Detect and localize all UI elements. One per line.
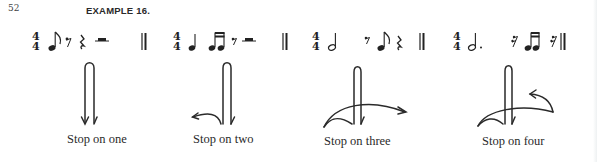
eighth-note-icon xyxy=(48,32,61,52)
quarter-rest-icon xyxy=(398,36,402,50)
down-stroke-left-curve-arrow-icon xyxy=(193,63,235,124)
double-barline-icon xyxy=(561,33,565,50)
double-barline-icon xyxy=(420,33,424,50)
half-rest-icon xyxy=(95,38,109,41)
time-signature-bottom: 4 xyxy=(453,40,461,53)
eighth-rest-icon xyxy=(232,38,237,45)
double-barline-icon xyxy=(142,33,146,50)
time-signature-bottom: 4 xyxy=(173,40,181,53)
caption-stop-on-three: Stop on three xyxy=(324,134,391,149)
down-stroke-cross-right-arrow-icon xyxy=(324,67,406,127)
measure-2: 4 4 xyxy=(173,30,287,53)
time-signature-bottom: 4 xyxy=(312,40,320,53)
double-barline-icon xyxy=(283,33,287,50)
quarter-note-icon xyxy=(188,34,196,52)
measure-3: 4 4 xyxy=(312,30,424,53)
time-signature-3: 4 4 xyxy=(312,30,320,53)
eighth-rest-icon xyxy=(365,37,370,44)
sixteenth-rest-icon xyxy=(511,36,517,47)
caption-stop-on-one: Stop on one xyxy=(67,132,127,147)
caption-stop-on-four: Stop on four xyxy=(482,134,545,149)
time-signature-bottom: 4 xyxy=(32,40,40,53)
measure-1: 4 4 xyxy=(32,30,146,53)
dotted-half-note-icon xyxy=(468,33,482,51)
eighth-rest-icon xyxy=(66,38,71,47)
measure-4: 4 4 xyxy=(453,30,565,53)
caption-stop-on-two: Stop on two xyxy=(193,132,253,147)
half-rest-icon xyxy=(242,38,256,41)
sixteenth-notes-icon xyxy=(208,32,225,52)
down-stroke-arrow-icon xyxy=(82,63,98,124)
down-stroke-cross-up-arrow-icon xyxy=(478,66,553,126)
eighth-note-icon xyxy=(377,32,390,52)
half-note-icon xyxy=(328,33,337,51)
quarter-rest-icon xyxy=(81,35,85,49)
time-signature-2: 4 4 xyxy=(173,30,181,53)
time-signature-4: 4 4 xyxy=(453,30,461,53)
sixteenth-rest-icon xyxy=(550,36,556,47)
time-signature-1: 4 4 xyxy=(32,30,40,53)
sixteenth-notes-icon xyxy=(524,32,540,52)
